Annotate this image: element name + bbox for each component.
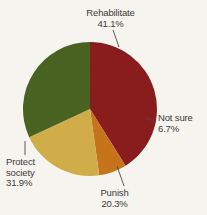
pie-label-notsure-name: Not sure (158, 113, 193, 124)
pie-label-rehabilitate: Rehabilitate 41.1% (0, 8, 207, 29)
pie-label-notsure: Not sure 6.7% (158, 113, 193, 134)
pie-label-rehabilitate-pct: 41.1% (14, 19, 207, 30)
pie-label-rehabilitate-name: Rehabilitate (14, 8, 207, 19)
leader-line-punish (117, 166, 124, 186)
pie-label-protect: Protect society 31.9% (6, 157, 35, 189)
leader-line-rehabilitate (113, 30, 119, 47)
pie-chart: Rehabilitate 41.1% Not sure 6.7% Punish … (0, 0, 207, 215)
pie-label-punish-name: Punish (22, 188, 207, 199)
pie-label-punish: Punish 20.3% (0, 188, 207, 209)
pie-label-protect-name-line1: Protect (6, 157, 35, 168)
pie-label-punish-pct: 20.3% (22, 199, 207, 210)
pie-label-notsure-pct: 6.7% (158, 124, 193, 135)
pie-slices-group (23, 42, 157, 176)
pie-label-protect-pct: 31.9% (6, 178, 35, 189)
